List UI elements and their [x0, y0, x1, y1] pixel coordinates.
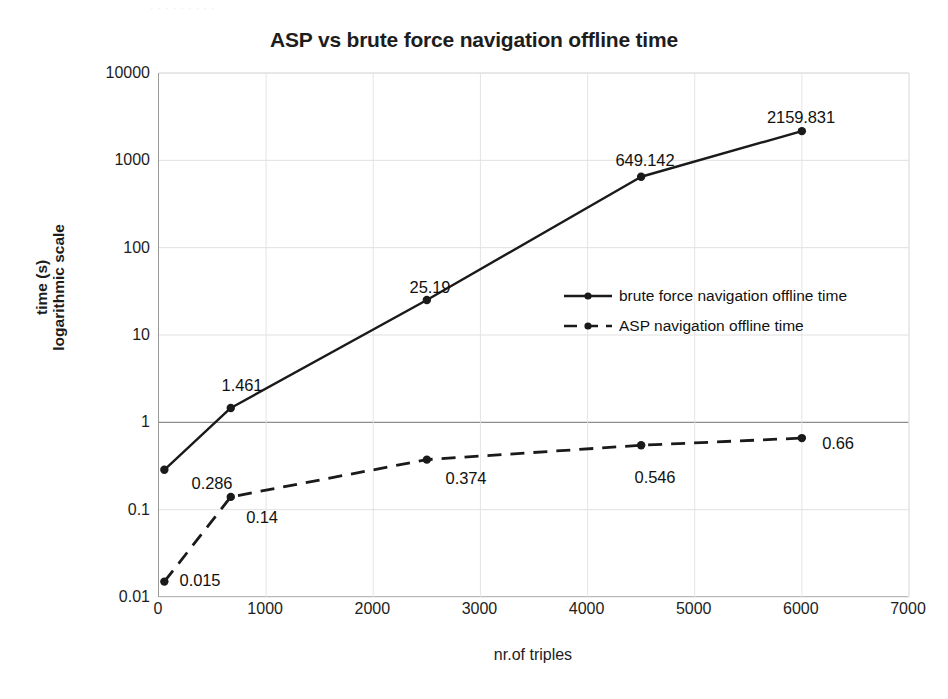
point-label-brute-force: 0.286 [192, 474, 233, 493]
chart-title: ASP vs brute force navigation offline ti… [0, 28, 948, 52]
point-label-asp: 0.015 [180, 571, 221, 590]
point-label-brute-force: 1.461 [222, 376, 263, 395]
point-label-brute-force: 649.142 [616, 151, 675, 170]
point-label-asp: 0.546 [635, 468, 676, 487]
x-tick-label: 1000 [247, 600, 283, 618]
y-tick-label: 100 [50, 239, 150, 257]
legend-key-icon [563, 289, 613, 303]
y-tick-label: 0.01 [50, 588, 150, 606]
data-point-marker [798, 434, 806, 442]
data-point-marker [423, 296, 431, 304]
x-tick-label: 2000 [354, 600, 390, 618]
point-label-asp: 0.14 [246, 508, 278, 527]
data-point-marker [637, 441, 645, 449]
x-tick-label: 6000 [783, 600, 819, 618]
x-axis-title: nr.of triples [158, 646, 908, 664]
point-label-brute-force: 2159.831 [767, 108, 835, 127]
chart-legend: brute force navigation offline timeASP n… [563, 281, 923, 341]
x-tick-label: 4000 [569, 600, 605, 618]
legend-label: brute force navigation offline time [619, 287, 847, 305]
data-point-marker [798, 127, 806, 135]
data-point-marker [227, 493, 235, 501]
data-point-marker [160, 466, 168, 474]
x-axis-tick-labels: 01000200030004000500060007000 [158, 600, 908, 630]
x-tick-label: 5000 [676, 600, 712, 618]
y-tick-label: 1000 [50, 151, 150, 169]
legend-label: ASP navigation offline time [619, 317, 804, 335]
x-tick-label: 3000 [462, 600, 498, 618]
scan-artifact: · · · · · · · · · [150, 2, 948, 14]
data-point-marker [637, 173, 645, 181]
y-tick-label: 0.1 [50, 501, 150, 519]
y-axis-tick-labels: 0.010.1110100100010000 [42, 73, 150, 597]
legend-item-2[interactable]: ASP navigation offline time [563, 311, 923, 341]
y-tick-label: 10 [50, 326, 150, 344]
y-tick-label: 1 [50, 413, 150, 431]
y-tick-label: 10000 [50, 64, 150, 82]
data-point-marker [160, 577, 168, 585]
data-point-marker [423, 455, 431, 463]
point-label-brute-force: 25.19 [410, 278, 451, 297]
point-label-asp: 0.66 [822, 434, 854, 453]
legend-key-icon [563, 319, 613, 333]
data-point-marker [227, 404, 235, 412]
x-tick-label: 0 [154, 600, 163, 618]
point-label-asp: 0.374 [446, 469, 487, 488]
legend-item-1[interactable]: brute force navigation offline time [563, 281, 923, 311]
x-tick-label: 7000 [890, 600, 926, 618]
chart-figure: · · · · · · · · · ASP vs brute force nav… [0, 0, 948, 699]
